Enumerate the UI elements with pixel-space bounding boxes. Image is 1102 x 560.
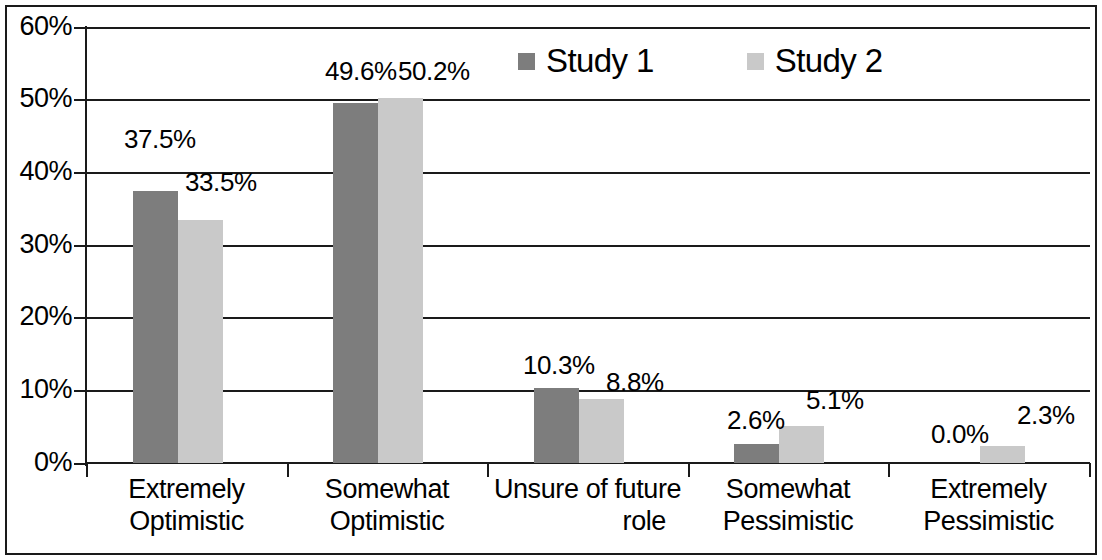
value-label-study-1-somewhat-pessimistic: 2.6% bbox=[727, 405, 785, 436]
bar-study-1-somewhat-pessimistic bbox=[734, 444, 779, 463]
legend-label-study-1: Study 1 bbox=[546, 42, 654, 80]
y-axis-label-10: 10% bbox=[0, 374, 72, 405]
value-label-study-2-somewhat-pessimistic: 5.1% bbox=[806, 385, 864, 416]
value-label-study-1-unsure-of-future-role: 10.3% bbox=[523, 350, 595, 381]
value-label-study-1-extremely-optimistic: 37.5% bbox=[124, 124, 196, 155]
value-label-study-1-somewhat-optimistic: 49.6% bbox=[325, 56, 397, 87]
bar-chart: 60% 50% 40% 30% 20% 10% 0% bbox=[0, 0, 1102, 560]
x-category-line-2: Optimistic bbox=[287, 506, 487, 538]
y-axis-label-60: 60% bbox=[0, 11, 72, 42]
x-category-somewhat-optimistic: Somewhat Optimistic bbox=[287, 474, 487, 538]
bars-layer bbox=[86, 27, 1090, 463]
value-label-study-2-extremely-pessimistic: 2.3% bbox=[1017, 400, 1075, 431]
bar-study-1-extremely-optimistic bbox=[133, 191, 178, 463]
x-category-line-1: Somewhat bbox=[287, 474, 487, 506]
legend-item-study-1: Study 1 bbox=[518, 42, 654, 80]
x-category-line-2: Optimistic bbox=[86, 506, 287, 538]
bar-study-2-extremely-optimistic bbox=[178, 220, 223, 463]
value-label-study-2-extremely-optimistic: 33.5% bbox=[185, 167, 257, 198]
bar-study-2-somewhat-optimistic bbox=[378, 98, 423, 463]
y-axis-label-30: 30% bbox=[0, 229, 72, 260]
legend-swatch-study-1-icon bbox=[518, 53, 535, 70]
x-category-extremely-optimistic: Extremely Optimistic bbox=[86, 474, 287, 538]
bar-study-2-somewhat-pessimistic bbox=[779, 426, 824, 463]
y-axis-label-0: 0% bbox=[0, 447, 72, 478]
legend-spacer bbox=[654, 61, 747, 62]
x-category-extremely-pessimistic: Extremely Pessimistic bbox=[888, 474, 1089, 538]
value-label-study-1-extremely-pessimistic: 0.0% bbox=[931, 419, 989, 450]
x-category-line-1: Extremely bbox=[888, 474, 1089, 506]
y-axis-label-20: 20% bbox=[0, 301, 72, 332]
legend-label-study-2: Study 2 bbox=[775, 42, 883, 80]
x-category-line-1: Unsure of future bbox=[487, 474, 688, 506]
value-label-study-2-somewhat-optimistic: 50.2% bbox=[398, 56, 470, 87]
x-category-line-1: Somewhat bbox=[688, 474, 888, 506]
chart-legend: Study 1 Study 2 bbox=[518, 42, 882, 80]
x-category-line-2: Pessimistic bbox=[688, 506, 888, 538]
x-category-somewhat-pessimistic: Somewhat Pessimistic bbox=[688, 474, 888, 538]
value-label-study-2-unsure-of-future-role: 8.8% bbox=[606, 367, 664, 398]
x-category-line-1: Extremely bbox=[86, 474, 287, 506]
bar-study-2-unsure-of-future-role bbox=[579, 399, 624, 463]
x-tick-5 bbox=[1089, 463, 1091, 477]
legend-swatch-study-2-icon bbox=[747, 53, 764, 70]
y-axis-labels: 60% 50% 40% 30% 20% 10% 0% bbox=[0, 0, 72, 560]
bar-study-1-somewhat-optimistic bbox=[333, 103, 378, 463]
y-axis-label-50: 50% bbox=[0, 83, 72, 114]
bar-study-1-unsure-of-future-role bbox=[534, 388, 579, 463]
x-category-unsure-of-future-role: Unsure of future role bbox=[487, 474, 688, 538]
x-category-line-2: role bbox=[487, 506, 688, 538]
y-axis-label-40: 40% bbox=[0, 156, 72, 187]
x-category-line-2: Pessimistic bbox=[888, 506, 1089, 538]
legend-item-study-2: Study 2 bbox=[747, 42, 883, 80]
